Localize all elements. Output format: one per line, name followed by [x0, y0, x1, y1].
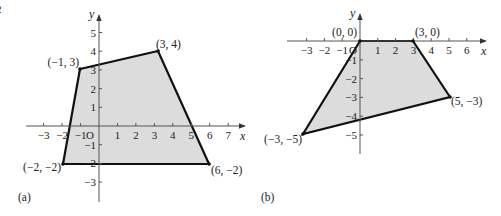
svg-text:−2: −2	[84, 157, 96, 169]
vertex-label-b-2: (3, 0)	[415, 26, 440, 39]
svg-text:4: 4	[428, 44, 434, 56]
panel-label-b: (b)	[261, 191, 275, 204]
svg-text:−1: −1	[84, 139, 96, 151]
svg-text:6: 6	[464, 44, 470, 56]
svg-text:2: 2	[133, 129, 139, 141]
panel-label-a: (a)	[18, 191, 31, 204]
svg-text:2: 2	[393, 44, 399, 56]
svg-text:−1: −1	[345, 54, 357, 66]
panel-a: −3 −2 −1 1 2 3 4 5 6 7 O x y 5 4 3	[18, 7, 246, 204]
x-axis-label-a: x	[239, 129, 246, 143]
svg-text:−3: −3	[38, 129, 50, 141]
svg-text:−3: −3	[345, 91, 357, 103]
vertex-label-b-1: (0, 0)	[332, 26, 357, 39]
svg-text:4: 4	[170, 129, 176, 141]
svg-text:−2: −2	[56, 129, 68, 141]
svg-text:7: 7	[225, 129, 231, 141]
svg-text:4: 4	[91, 45, 97, 57]
svg-text:−2: −2	[345, 73, 357, 85]
svg-text:5: 5	[189, 129, 195, 141]
svg-text:−2: −2	[319, 44, 331, 56]
vertex-label-a-3: (6, −2)	[211, 164, 243, 177]
vertex-label-b-4: (−3, −5)	[264, 133, 302, 146]
corner-fragment: 2	[0, 3, 2, 15]
vertex-b-1	[358, 39, 362, 43]
svg-text:5: 5	[91, 27, 97, 39]
vertex-label-b-3: (5, −3)	[451, 95, 483, 108]
svg-text:−3: −3	[301, 44, 313, 56]
svg-text:6: 6	[207, 129, 213, 141]
svg-text:1: 1	[91, 101, 97, 113]
svg-text:3: 3	[152, 129, 158, 141]
svg-text:5: 5	[446, 44, 452, 56]
svg-text:−4: −4	[345, 110, 357, 122]
vertex-label-a-1: (−1, 3)	[48, 56, 80, 69]
x-tick-labels-a: −3 −2 −1 1 2 3 4 5 6 7	[38, 129, 232, 141]
svg-text:1: 1	[115, 129, 121, 141]
vertex-label-a-4: (−2, −2)	[23, 161, 61, 174]
vertex-a-4	[61, 162, 65, 166]
svg-text:1: 1	[375, 44, 381, 56]
svg-text:−3: −3	[84, 176, 96, 188]
svg-text:−5: −5	[345, 129, 357, 141]
svg-text:3: 3	[411, 44, 417, 56]
svg-text:3: 3	[91, 64, 97, 76]
vertex-label-a-2: (3, 4)	[156, 38, 181, 51]
vertex-b-2	[411, 39, 415, 43]
figure-canvas: 2 −3 −2 −1 1 2 3 4 5	[0, 0, 501, 216]
x-axis-label-b: x	[480, 44, 487, 58]
svg-text:2: 2	[91, 83, 97, 95]
panel-b: −3 −2 −1 1 2 3 4 5 6 O x y −1 −2 −3 −4 −…	[261, 6, 487, 204]
y-axis-label-a: y	[88, 7, 95, 21]
y-axis-label-b: y	[349, 6, 356, 20]
